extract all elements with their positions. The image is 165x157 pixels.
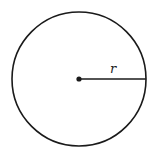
center-point xyxy=(76,76,81,81)
circle-diagram: r xyxy=(0,0,165,157)
radius-label: r xyxy=(110,61,117,76)
